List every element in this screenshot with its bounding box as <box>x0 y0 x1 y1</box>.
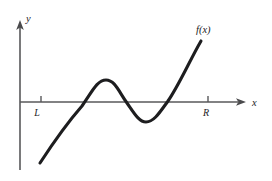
y-axis-label: y <box>25 13 31 24</box>
plot-canvas: y x L R f(x) <box>0 0 272 181</box>
tick-label-right: R <box>202 107 209 118</box>
function-label: f(x) <box>196 24 211 36</box>
tick-label-left: L <box>33 107 40 118</box>
x-axis-label: x <box>251 97 257 108</box>
function-graph-figure: y x L R f(x) <box>0 0 272 181</box>
